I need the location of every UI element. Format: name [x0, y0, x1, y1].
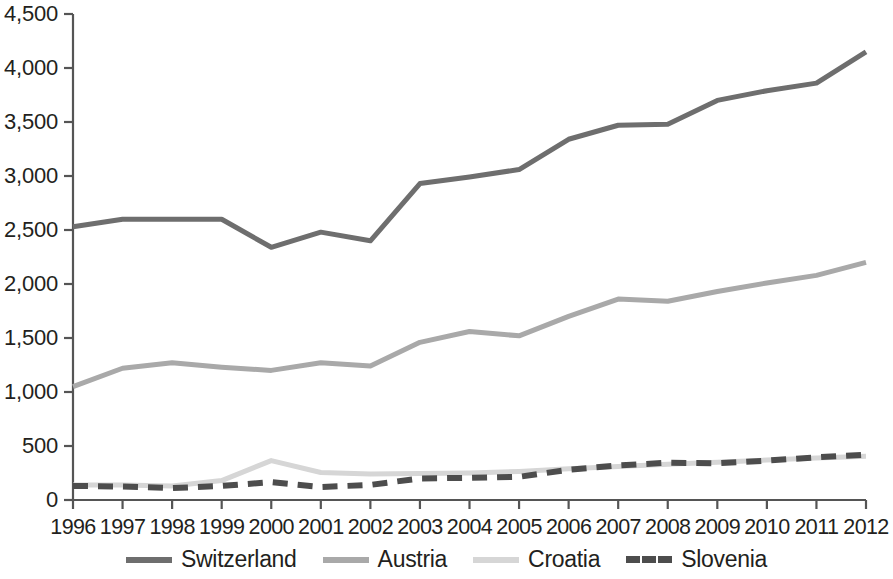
legend-label-slovenia: Slovenia	[681, 546, 767, 573]
series-line-austria	[73, 262, 866, 386]
x-axis-tick-label: 2007	[595, 515, 640, 540]
x-axis-tick-label: 1999	[199, 515, 244, 540]
legend-label-croatia: Croatia	[528, 546, 600, 573]
x-axis-tick-label: 2011	[795, 515, 839, 540]
y-axis-tick-label: 2,000	[4, 271, 58, 297]
x-axis-tick-label: 2005	[496, 515, 541, 540]
axes	[64, 14, 866, 509]
series-lines	[73, 52, 866, 488]
x-axis-tick-label: 2004	[447, 515, 492, 540]
legend-swatch-slovenia	[626, 556, 672, 563]
legend-label-switzerland: Switzerland	[181, 546, 297, 573]
x-axis-tick-label: 2009	[695, 515, 740, 540]
y-axis-tick-label: 0	[46, 487, 58, 513]
y-axis-tick-label: 3,000	[4, 163, 58, 189]
x-axis-tick-label: 2008	[645, 515, 690, 540]
x-axis-tick-label: 1996	[50, 515, 95, 540]
legend-item-switzerland[interactable]: Switzerland	[126, 546, 297, 573]
line-chart: 05001,0001,5002,0002,5003,0003,5004,0004…	[0, 0, 893, 579]
x-axis-tick-label: 2012	[843, 515, 888, 540]
series-line-switzerland	[73, 52, 866, 247]
x-axis-tick-label: 2000	[249, 515, 294, 540]
chart-legend: SwitzerlandAustriaCroatiaSlovenia	[0, 546, 893, 573]
legend-item-croatia[interactable]: Croatia	[473, 546, 600, 573]
legend-swatch-croatia	[473, 557, 519, 563]
y-axis-tick-label: 500	[22, 433, 58, 459]
legend-label-austria: Austria	[378, 546, 447, 573]
legend-swatch-austria	[323, 557, 369, 563]
x-axis-tick-label: 1998	[149, 515, 194, 540]
y-axis-tick-label: 4,000	[4, 55, 58, 81]
legend-item-austria[interactable]: Austria	[323, 546, 447, 573]
plot-area	[0, 0, 893, 579]
x-axis-tick-label: 2001	[298, 515, 343, 540]
y-axis-tick-label: 2,500	[4, 217, 58, 243]
y-axis-tick-label: 3,500	[4, 109, 58, 135]
x-axis-tick-label: 2003	[397, 515, 442, 540]
legend-swatch-switzerland	[126, 557, 172, 563]
x-axis-tick-label: 2006	[546, 515, 591, 540]
y-axis-tick-label: 4,500	[4, 1, 58, 27]
y-axis-tick-label: 1,500	[4, 325, 58, 351]
y-axis-tick-label: 1,000	[4, 379, 58, 405]
legend-item-slovenia[interactable]: Slovenia	[626, 546, 767, 573]
x-axis-tick-label: 2002	[348, 515, 393, 540]
x-axis-tick-label: 2010	[744, 515, 789, 540]
x-axis-tick-label: 1997	[100, 515, 145, 540]
